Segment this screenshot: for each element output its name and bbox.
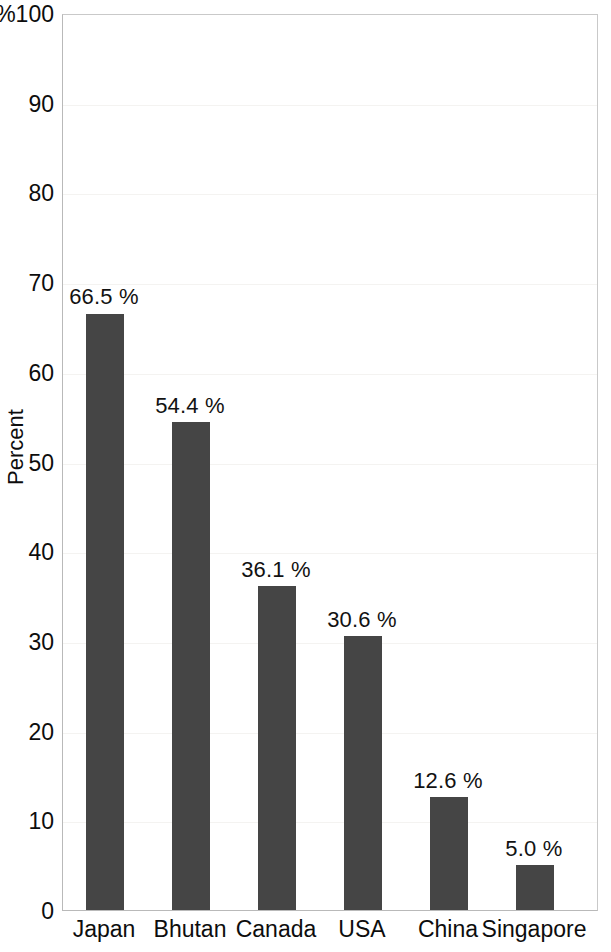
bar-value-label: 30.6 % [327, 607, 397, 633]
y-axis-tick-label: 10 [28, 808, 54, 835]
y-axis-tick-label: 40 [28, 539, 54, 566]
y-axis-tick-label: 0 [41, 898, 54, 925]
x-axis-category-label: China [418, 916, 478, 943]
y-axis-tick-label: 70 [28, 270, 54, 297]
y-axis-tick-label: %100 [0, 1, 54, 28]
y-axis-tick-label: 60 [28, 359, 54, 386]
x-axis-category-label: Canada [236, 916, 317, 943]
bar-value-label: 12.6 % [413, 768, 483, 794]
bar [430, 797, 468, 910]
bar-value-label: 36.1 % [241, 557, 311, 583]
x-axis-category-label: USA [338, 916, 385, 943]
bars-layer [63, 15, 597, 910]
x-axis-category-label: Bhutan [154, 916, 227, 943]
bar [172, 422, 210, 910]
y-axis-tick-label: 30 [28, 628, 54, 655]
y-axis-tick-label: 80 [28, 180, 54, 207]
bar-value-label: 66.5 % [69, 284, 139, 310]
x-axis-category-label: Singapore [482, 916, 587, 943]
bar [344, 636, 382, 910]
y-axis-tick-label: 20 [28, 718, 54, 745]
y-axis-title: Percent [3, 445, 29, 485]
bar-value-label: 54.4 % [155, 393, 225, 419]
bar [258, 586, 296, 910]
bar [86, 314, 124, 911]
bar [516, 865, 554, 910]
x-axis: JapanBhutanCanadaUSAChinaSingapore [62, 916, 611, 952]
y-axis-tick-label: 50 [28, 449, 54, 476]
y-axis-tick-label: 90 [28, 90, 54, 117]
bar-value-label: 5.0 % [505, 836, 562, 862]
x-axis-category-label: Japan [73, 916, 136, 943]
bar-chart: 0102030405060708090%100 Percent JapanBhu… [0, 0, 611, 952]
plot-area [62, 14, 598, 911]
